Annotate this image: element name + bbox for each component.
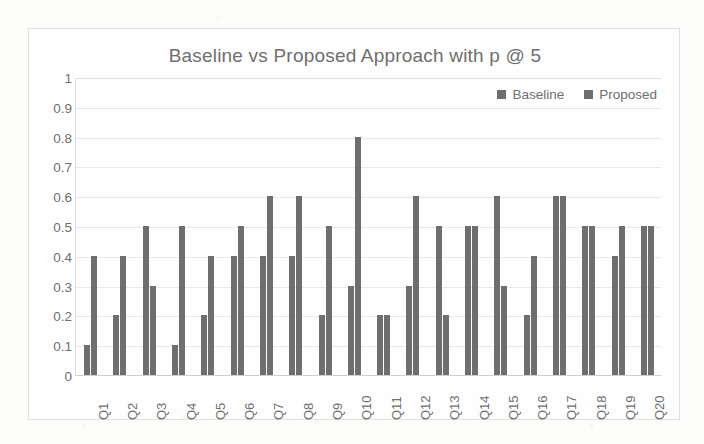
bar-proposed-q7[interactable] xyxy=(267,196,273,375)
x-tick-label-q16: Q16 xyxy=(535,395,550,420)
bar-baseline-q17[interactable] xyxy=(553,196,559,375)
bar-baseline-q1[interactable] xyxy=(84,345,90,375)
x-tick-label-q14: Q14 xyxy=(477,395,492,420)
scanned-page-background: Baseline vs Proposed Approach with p @ 5… xyxy=(0,0,704,444)
x-tick-label-q17: Q17 xyxy=(564,395,579,420)
bar-baseline-q2[interactable] xyxy=(113,315,119,375)
bar-proposed-q1[interactable] xyxy=(91,256,97,375)
chart-frame: Baseline vs Proposed Approach with p @ 5… xyxy=(28,28,680,420)
bar-proposed-q11[interactable] xyxy=(384,315,390,375)
bar-proposed-q5[interactable] xyxy=(208,256,214,375)
bar-proposed-q9[interactable] xyxy=(326,226,332,375)
bar-proposed-q19[interactable] xyxy=(619,226,625,375)
x-tick-label-q5: Q5 xyxy=(213,403,228,420)
bar-group xyxy=(612,78,625,375)
bar-proposed-q4[interactable] xyxy=(179,226,185,375)
plot-area: 10.90.80.70.60.50.40.30.20.10 xyxy=(75,78,661,376)
y-axis: 10.90.80.70.60.50.40.30.20.10 xyxy=(32,78,72,376)
bar-group xyxy=(201,78,214,375)
bar-proposed-q6[interactable] xyxy=(238,226,244,375)
y-tick-label: 0.6 xyxy=(32,190,72,205)
x-tick-label-q20: Q20 xyxy=(652,395,667,420)
bar-baseline-q18[interactable] xyxy=(582,226,588,375)
y-tick-label: 0.4 xyxy=(32,249,72,264)
bar-baseline-q11[interactable] xyxy=(377,315,383,375)
bar-group xyxy=(436,78,449,375)
x-tick-label-q1: Q1 xyxy=(96,403,111,420)
bar-baseline-q8[interactable] xyxy=(289,256,295,375)
bar-group xyxy=(260,78,273,375)
bar-proposed-q3[interactable] xyxy=(150,286,156,375)
y-tick-label: 0.2 xyxy=(32,309,72,324)
y-tick-label: 0.3 xyxy=(32,279,72,294)
x-tick-label-q11: Q11 xyxy=(389,396,404,420)
x-tick-label-q4: Q4 xyxy=(184,403,199,420)
x-tick-label-q7: Q7 xyxy=(271,403,286,420)
bar-baseline-q5[interactable] xyxy=(201,315,207,375)
bar-baseline-q10[interactable] xyxy=(348,286,354,375)
x-axis: Q1Q2Q3Q4Q5Q6Q7Q8Q9Q10Q11Q12Q13Q14Q15Q16Q… xyxy=(75,378,661,424)
bar-group xyxy=(231,78,244,375)
bar-group xyxy=(348,78,361,375)
x-tick-label-q2: Q2 xyxy=(125,403,140,420)
bar-group xyxy=(143,78,156,375)
x-tick-label-q13: Q13 xyxy=(447,395,462,420)
y-tick-label: 0.9 xyxy=(32,100,72,115)
bar-group xyxy=(582,78,595,375)
bar-baseline-q19[interactable] xyxy=(612,256,618,375)
bar-group xyxy=(406,78,419,375)
x-tick-label-q15: Q15 xyxy=(506,395,521,420)
bar-group xyxy=(524,78,537,375)
chart-title: Baseline vs Proposed Approach with p @ 5 xyxy=(29,45,681,67)
y-tick-label: 1 xyxy=(32,71,72,86)
y-tick-label: 0.7 xyxy=(32,160,72,175)
bar-proposed-q10[interactable] xyxy=(355,137,361,375)
bar-proposed-q15[interactable] xyxy=(501,286,507,375)
bar-group xyxy=(113,78,126,375)
bar-proposed-q16[interactable] xyxy=(531,256,537,375)
x-tick-label-q9: Q9 xyxy=(330,403,345,420)
bar-group xyxy=(641,78,654,375)
bar-group xyxy=(494,78,507,375)
y-tick-label: 0.8 xyxy=(32,130,72,145)
bar-baseline-q20[interactable] xyxy=(641,226,647,375)
bar-group xyxy=(465,78,478,375)
x-tick-label-q19: Q19 xyxy=(623,395,638,420)
x-tick-label-q10: Q10 xyxy=(359,395,374,420)
bar-baseline-q6[interactable] xyxy=(231,256,237,375)
bar-group xyxy=(84,78,97,375)
bar-proposed-q14[interactable] xyxy=(472,226,478,375)
bar-proposed-q8[interactable] xyxy=(296,196,302,375)
bar-group xyxy=(377,78,390,375)
x-tick-label-q18: Q18 xyxy=(594,395,609,420)
x-tick-label-q3: Q3 xyxy=(154,403,169,420)
bar-proposed-q2[interactable] xyxy=(120,256,126,375)
bar-baseline-q14[interactable] xyxy=(465,226,471,375)
bar-proposed-q13[interactable] xyxy=(443,315,449,375)
bar-baseline-q9[interactable] xyxy=(319,315,325,375)
bar-baseline-q7[interactable] xyxy=(260,256,266,375)
bar-group xyxy=(319,78,332,375)
bar-group xyxy=(553,78,566,375)
x-tick-label-q8: Q8 xyxy=(301,403,316,420)
y-tick-label: 0.5 xyxy=(32,220,72,235)
y-tick-label: 0.1 xyxy=(32,339,72,354)
bar-group xyxy=(172,78,185,375)
bar-baseline-q16[interactable] xyxy=(524,315,530,375)
bar-proposed-q20[interactable] xyxy=(648,226,654,375)
x-tick-label-q12: Q12 xyxy=(418,395,433,420)
bar-group xyxy=(289,78,302,375)
y-tick-label: 0 xyxy=(32,369,72,384)
bar-proposed-q17[interactable] xyxy=(560,196,566,375)
bar-baseline-q15[interactable] xyxy=(494,196,500,375)
bar-baseline-q4[interactable] xyxy=(172,345,178,375)
bar-baseline-q3[interactable] xyxy=(143,226,149,375)
bars-layer xyxy=(76,78,661,375)
bar-proposed-q18[interactable] xyxy=(589,226,595,375)
bar-baseline-q12[interactable] xyxy=(406,286,412,375)
bar-baseline-q13[interactable] xyxy=(436,226,442,375)
bar-proposed-q12[interactable] xyxy=(413,196,419,375)
x-tick-label-q6: Q6 xyxy=(242,403,257,420)
